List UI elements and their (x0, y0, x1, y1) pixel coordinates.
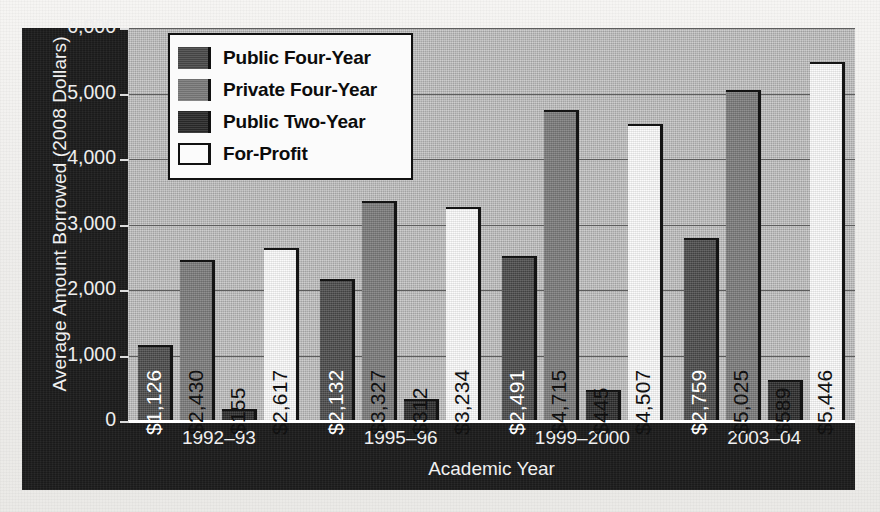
y-tick-2000: 2,000 (67, 277, 129, 300)
x-axis-title: Academic Year (128, 458, 855, 480)
plot-area: $1,126$2,430$155$2,617$2,132$3,327$312$3… (128, 28, 855, 421)
bar-texture (810, 64, 842, 421)
legend-swatch-texture (178, 111, 208, 133)
bar-private-four-year-1995-96[interactable] (362, 203, 397, 421)
bar-top-edge (222, 409, 257, 411)
bar-public-four-year-1992-93[interactable] (138, 347, 173, 421)
y-tick-mark (120, 159, 129, 161)
legend-item-public-four-year[interactable]: Public Four-Year (178, 42, 401, 74)
bar-top-edge (446, 207, 481, 209)
bar-top-edge (810, 62, 845, 64)
legend-swatch-icon (178, 47, 211, 69)
y-tick-mark (120, 356, 129, 358)
legend-swatch-texture (178, 47, 208, 69)
legend-item-private-four-year[interactable]: Private Four-Year (178, 74, 401, 106)
bar-top-edge (138, 345, 173, 347)
y-tick-1000: 1,000 (67, 343, 129, 366)
y-tick-mark (120, 225, 129, 227)
bar-top-edge (586, 390, 621, 392)
y-tick-label: 5,000 (67, 81, 116, 103)
bar-top-edge (684, 238, 719, 240)
bar-private-four-year-1992-93[interactable] (180, 262, 215, 421)
y-tick-label: 2,000 (67, 277, 116, 299)
bar-public-two-year-1995-96[interactable] (404, 401, 439, 421)
y-tick-0: 0 (105, 408, 129, 431)
bar-texture (684, 240, 716, 421)
y-tick-3000: 3,000 (67, 212, 129, 235)
gridline (128, 28, 855, 29)
zero-axis-line (128, 420, 855, 423)
bar-for-profit-1995-96[interactable] (446, 209, 481, 421)
legend-label: Public Four-Year (223, 47, 371, 69)
legend-item-public-two-year[interactable]: Public Two-Year (178, 106, 401, 138)
bar-top-edge (502, 256, 537, 258)
legend-label: Public Two-Year (223, 111, 365, 133)
bar-texture (362, 203, 394, 421)
x-tick-1995-96: 1995–96 (310, 427, 492, 449)
legend-swatch-icon (178, 111, 211, 133)
bar-public-two-year-2003-04[interactable] (768, 382, 803, 421)
bar-public-four-year-1999-2000[interactable] (502, 258, 537, 421)
bar-top-edge (362, 201, 397, 203)
y-tick-label: 3,000 (67, 212, 116, 234)
bar-texture (264, 250, 296, 421)
bar-texture (726, 92, 758, 421)
bar-for-profit-2003-04[interactable] (810, 64, 845, 421)
y-tick-5000: 5,000 (67, 81, 129, 104)
y-tick-mark (120, 290, 129, 292)
y-tick-label: 6,000 (67, 15, 116, 37)
bar-public-four-year-1995-96[interactable] (320, 281, 355, 421)
legend-swatch-icon (178, 79, 211, 101)
bar-texture (502, 258, 534, 421)
bar-top-edge (768, 380, 803, 382)
bar-texture (768, 382, 800, 421)
bar-texture (628, 126, 660, 421)
x-tick-2003-04: 2003–04 (673, 427, 855, 449)
bar-top-edge (320, 279, 355, 281)
y-tick-mark (120, 94, 129, 96)
bar-top-edge (180, 260, 215, 262)
bar-top-edge (404, 399, 439, 401)
legend-swatch-icon (178, 143, 211, 165)
bar-top-edge (264, 248, 299, 250)
y-tick-label: 1,000 (67, 343, 116, 365)
x-tick-1999-2000: 1999–2000 (492, 427, 674, 449)
x-tick-1992-93: 1992–93 (128, 427, 310, 449)
bar-texture (320, 281, 352, 421)
bar-texture (180, 262, 212, 421)
bar-texture (544, 112, 576, 421)
bar-texture (586, 392, 618, 421)
legend-label: Private Four-Year (223, 79, 377, 101)
y-tick-mark (120, 28, 129, 30)
y-tick-4000: 4,000 (67, 146, 129, 169)
bar-public-four-year-2003-04[interactable] (684, 240, 719, 421)
bar-texture (138, 347, 170, 421)
legend-item-for-profit[interactable]: For-Profit (178, 138, 401, 170)
bar-private-four-year-1999-2000[interactable] (544, 112, 579, 421)
legend-label: For-Profit (223, 143, 308, 165)
bar-for-profit-1992-93[interactable] (264, 250, 299, 421)
bar-for-profit-1999-2000[interactable] (628, 126, 663, 421)
bar-texture (404, 401, 436, 421)
legend-swatch-texture (178, 79, 208, 101)
bar-public-two-year-1999-2000[interactable] (586, 392, 621, 421)
bar-top-edge (544, 110, 579, 112)
bar-private-four-year-2003-04[interactable] (726, 92, 761, 421)
chart-frame: Average Amount Borrowed (2008 Dollars) 0… (22, 28, 855, 490)
bar-texture (446, 209, 478, 421)
chart-legend[interactable]: Public Four-YearPrivate Four-YearPublic … (168, 33, 413, 180)
bar-top-edge (628, 124, 663, 126)
y-tick-mark (120, 421, 129, 423)
y-tick-6000: 6,000 (67, 15, 129, 38)
y-tick-label: 4,000 (67, 146, 116, 168)
scanned-page: Average Amount Borrowed (2008 Dollars) 0… (0, 0, 880, 512)
bar-top-edge (726, 90, 761, 92)
y-tick-label: 0 (105, 408, 116, 430)
